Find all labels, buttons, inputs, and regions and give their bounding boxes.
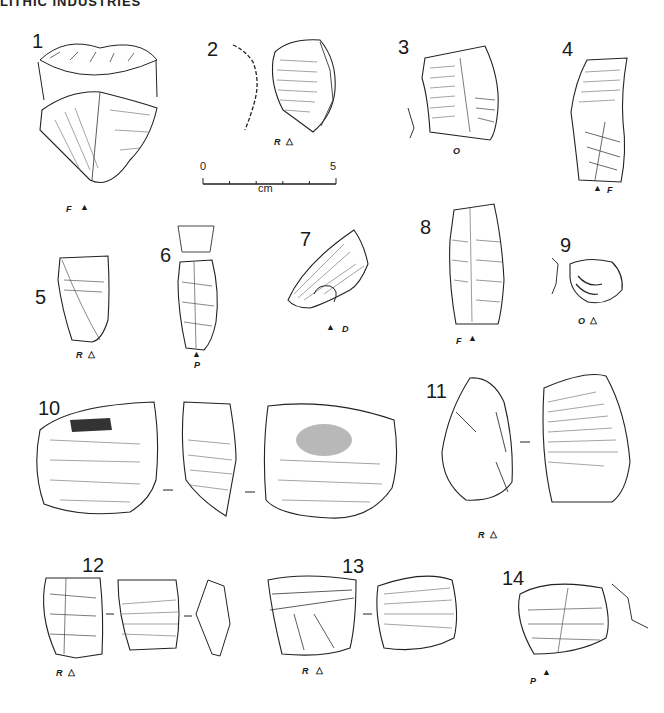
platform-marker: ▲: [542, 667, 551, 677]
platform-marker: ▲: [192, 349, 201, 359]
scale-unit-label: cm: [258, 182, 273, 194]
page-header: LITHIC INDUSTRIES: [0, 0, 141, 9]
artifact-drawing-6: [172, 222, 232, 362]
figure-code: R: [274, 137, 281, 147]
figure-code: R: [302, 666, 309, 676]
artifact-drawing-5: [52, 250, 122, 350]
figure-number: 5: [35, 286, 46, 309]
artifact-drawing-3: [400, 38, 510, 158]
figure-code: R: [478, 530, 485, 540]
artifact-drawing-9: [548, 254, 638, 314]
platform-marker: △: [88, 349, 95, 359]
artifact-drawing-7: [284, 224, 384, 324]
figure-number: 6: [160, 244, 171, 267]
figure-code: P: [530, 676, 536, 686]
figure-code: O: [453, 146, 460, 156]
scale-end-label: 5: [330, 160, 336, 172]
figure-code: F: [607, 185, 613, 195]
figure-number: 2: [207, 38, 218, 61]
figure-code: F: [66, 204, 72, 214]
artifact-drawing-2: [225, 30, 355, 150]
artifact-drawing-10: [30, 400, 450, 520]
platform-marker: ▲: [326, 322, 335, 332]
artifact-drawing-12: [36, 574, 246, 674]
platform-marker: ▲: [80, 202, 89, 212]
platform-marker: ▲: [468, 333, 477, 343]
scale-bar: 0 5 cm: [202, 160, 338, 194]
artifact-drawing-4: [565, 52, 664, 192]
artifact-drawing-8: [440, 200, 520, 350]
figure-code: R: [76, 350, 83, 360]
figure-code: F: [456, 336, 462, 346]
scale-start-label: 0: [200, 160, 206, 172]
artifact-drawing-1: [20, 40, 200, 220]
artifact-drawing-11: [436, 372, 636, 532]
platform-marker: △: [316, 665, 323, 675]
platform-marker: △: [286, 136, 293, 146]
figure-code: D: [342, 324, 349, 334]
artifact-drawing-14: [508, 580, 648, 670]
artifact-drawing-13: [264, 574, 464, 674]
platform-marker: △: [490, 529, 497, 539]
platform-marker: △: [590, 315, 597, 325]
figure-code: O: [578, 316, 585, 326]
platform-marker: ▲: [593, 183, 602, 193]
figure-code: R: [56, 668, 63, 678]
figure-code: P: [194, 360, 200, 370]
figure-number: 8: [420, 216, 431, 239]
platform-marker: △: [68, 667, 75, 677]
